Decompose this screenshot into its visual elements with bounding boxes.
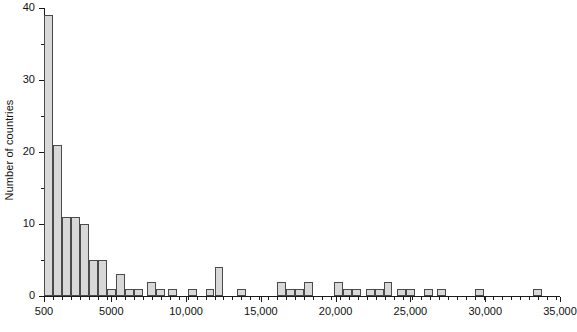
x-axis-minor-tick [412,297,413,300]
histogram-bar [53,145,62,296]
x-axis-minor-tick [53,297,54,300]
x-axis-minor-tick [188,297,189,300]
x-axis-minor-tick [421,297,422,300]
x-axis-minor-tick [448,297,449,300]
histogram-bar [277,282,286,296]
x-axis-minor-tick [277,297,278,300]
x-axis-minor-tick [223,297,224,300]
x-axis-minor-tick [502,297,503,300]
x-axis-minor-tick [457,297,458,300]
x-axis-minor-tick [529,297,530,300]
y-axis-minor-tick [41,260,44,261]
x-axis-minor-tick [349,297,350,300]
x-axis-minor-tick [313,297,314,300]
histogram-bar [424,289,433,296]
x-axis-tick-label: 20,000 [319,305,353,317]
x-axis-minor-tick [439,297,440,300]
histogram-bar [98,260,107,296]
histogram-bar [343,289,352,296]
x-axis-minor-tick [215,297,216,300]
y-axis-tick-label: 30 [23,73,35,85]
y-axis-tick-label: 20 [23,145,35,157]
x-axis-minor-tick [98,297,99,300]
x-axis-minor-tick [493,297,494,300]
x-axis-minor-tick [511,297,512,300]
y-axis-tick: 40 [39,8,44,9]
x-axis-minor-tick [232,297,233,300]
y-axis-minor-tick [41,188,44,189]
x-axis-minor-tick [268,297,269,300]
histogram-bar [406,289,415,296]
x-axis-minor-tick [358,297,359,300]
histogram-bar [89,260,98,296]
histogram-bar [295,289,304,296]
y-axis-tick: 30 [39,80,44,81]
x-axis-minor-tick [143,297,144,300]
histogram-bar [237,289,246,296]
x-axis-minor-tick [179,297,180,300]
y-axis-tick-label: 10 [23,217,35,229]
x-axis-minor-tick [107,297,108,300]
histogram-bar [168,289,177,296]
histogram-bar [80,224,89,296]
histogram-bar [107,289,116,296]
histogram-bar [156,289,165,296]
y-axis-tick: 20 [39,152,44,153]
histogram-bar [384,282,393,296]
x-axis-tick-label: 10,000 [169,305,203,317]
x-axis-minor-tick [89,297,90,300]
histogram-bar [62,217,71,296]
histogram-bar [334,282,343,296]
x-axis-tick [485,297,486,302]
x-axis-tick [336,297,337,302]
plot-area: 010203040 500500010,00015,00020,00025,00… [44,8,560,296]
x-axis-minor-tick [322,297,323,300]
x-axis-minor-tick [286,297,287,300]
x-axis-minor-tick [556,297,557,300]
histogram-bar [188,289,197,296]
histogram-bar [44,15,53,296]
x-axis-tick [186,297,187,302]
histogram-bar [397,289,406,296]
x-axis-minor-tick [116,297,117,300]
x-axis-tick-label: 500 [35,305,53,317]
x-axis-minor-tick [152,297,153,300]
histogram-bar [147,282,156,296]
y-axis-tick: 10 [39,224,44,225]
x-axis-tick [261,297,262,302]
histogram-bar [206,289,215,296]
x-axis-minor-tick [161,297,162,300]
y-axis-minor-tick [41,116,44,117]
histogram-bar [533,289,542,296]
x-axis-tick [111,297,112,302]
x-axis-minor-tick [197,297,198,300]
x-axis-minor-tick [376,297,377,300]
x-axis-minor-tick [331,297,332,300]
y-axis-minor-tick [41,44,44,45]
x-axis-minor-tick [80,297,81,300]
x-axis-minor-tick [430,297,431,300]
histogram-bar [304,282,313,296]
x-axis-tick-label: 30,000 [468,305,502,317]
histogram-bar [125,289,134,296]
x-axis-tick-label: 35,000 [543,305,577,317]
x-axis-minor-tick [125,297,126,300]
x-axis-tick [44,297,45,302]
x-axis-minor-tick [475,297,476,300]
x-axis-minor-tick [304,297,305,300]
histogram-bar [134,289,143,296]
x-axis-tick [410,297,411,302]
x-axis-minor-tick [385,297,386,300]
histogram-bar [366,289,375,296]
x-axis-minor-tick [538,297,539,300]
x-axis-minor-tick [403,297,404,300]
x-axis-minor-tick [250,297,251,300]
histogram-bar [286,289,295,296]
x-axis-tick [560,297,561,302]
x-axis-minor-tick [206,297,207,300]
y-axis-tick-label: 40 [23,1,35,13]
histogram-bar [375,289,384,296]
histogram-bar [71,217,80,296]
x-axis-minor-tick [394,297,395,300]
